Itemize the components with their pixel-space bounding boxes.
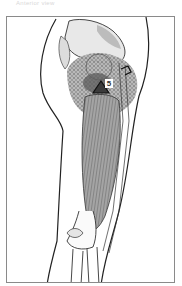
muscle-belly xyxy=(82,94,120,229)
figure-caption: Anterior view xyxy=(16,0,55,6)
trigger-point-label: 5 xyxy=(105,79,113,88)
body-outline-left xyxy=(41,19,63,283)
thigh-illustration xyxy=(7,17,175,283)
tibia xyxy=(87,247,99,283)
illustration-frame: 5 xyxy=(6,16,175,283)
fibula xyxy=(71,249,83,283)
